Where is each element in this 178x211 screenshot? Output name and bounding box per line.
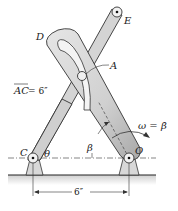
svg-text:AC: AC <box>13 85 29 96</box>
pivot-c <box>28 153 38 163</box>
label-c: C <box>20 147 28 158</box>
label-beta: β <box>86 142 93 153</box>
label-a: A <box>109 60 117 71</box>
label-theta: θ <box>44 148 50 159</box>
label-o: O <box>135 145 143 156</box>
omega-arrowhead <box>143 132 150 138</box>
pin-a <box>78 72 87 81</box>
label-ac-length: AC = 6″ <box>13 84 48 96</box>
label-omega: ω = β̇ <box>138 120 167 131</box>
ground <box>8 175 156 185</box>
mechanism-diagram: D E A AC = 6″ C θ β O ω = β̇ 6″ <box>0 0 178 211</box>
pivot-o <box>124 153 134 163</box>
label-d: D <box>35 31 44 42</box>
svg-text:= 6″: = 6″ <box>28 86 48 96</box>
label-e: E <box>123 15 132 26</box>
label-base-dimension: 6″ <box>74 187 84 197</box>
